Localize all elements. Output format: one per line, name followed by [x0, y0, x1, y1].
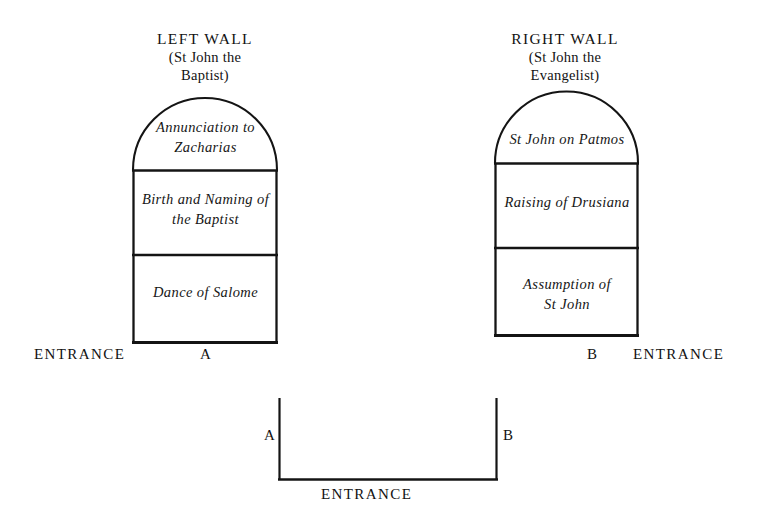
right-wall-key-letter: B [587, 346, 598, 363]
right-wall-heading-main: RIGHT WALL [465, 30, 665, 49]
plan-key-letter-a: A [264, 427, 275, 444]
right-wall-scene-lower: Assumption of St John [494, 275, 640, 314]
diagram-canvas: LEFT WALL (St John the Baptist) Annuncia… [0, 0, 766, 522]
right-wall-scene-lunette: St John on Patmos [494, 130, 640, 150]
left-wall-key-letter: A [200, 346, 211, 363]
right-wall-heading-sub-line1: (St John the [465, 49, 665, 67]
right-wall-arch [495, 92, 638, 164]
left-wall-heading-sub-line2: Baptist) [105, 67, 305, 85]
left-wall-entrance-label: ENTRANCE [34, 346, 125, 363]
right-wall-heading-sub-line2: Evangelist) [465, 67, 665, 85]
plan-key-letter-b: B [503, 427, 514, 444]
left-wall-heading-main: LEFT WALL [105, 30, 305, 49]
plan-entrance-label: ENTRANCE [321, 486, 412, 503]
left-wall-scene-middle: Birth and Naming of the Baptist [133, 190, 278, 229]
left-wall-scene-lower: Dance of Salome [133, 283, 278, 303]
right-wall-scene-middle: Raising of Drusiana [494, 193, 640, 213]
left-wall-heading-sub-line1: (St John the [105, 49, 305, 67]
left-wall-heading: LEFT WALL (St John the Baptist) [105, 30, 305, 84]
right-wall-heading: RIGHT WALL (St John the Evangelist) [465, 30, 665, 84]
right-wall-entrance-label: ENTRANCE [633, 346, 724, 363]
left-wall-scene-lunette: Annunciation to Zacharias [133, 118, 278, 157]
